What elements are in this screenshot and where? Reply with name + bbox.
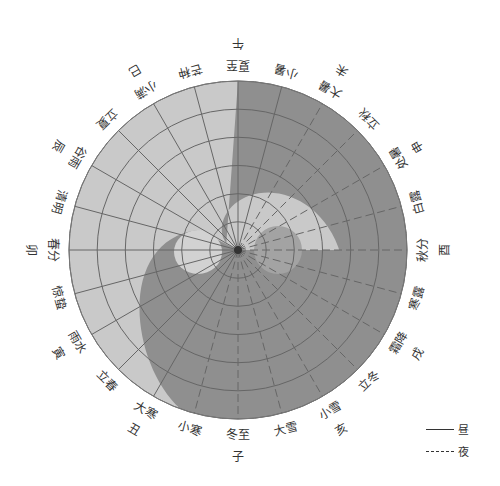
branch-label: 卯 — [24, 244, 38, 256]
solar-term-label: 夏至 — [226, 58, 250, 72]
branch-label: 子 — [232, 450, 244, 464]
solar-term-label: 芒种 — [177, 61, 204, 82]
solar-term-label: 春分 — [46, 238, 60, 262]
solar-term-label: 大暑 — [317, 78, 345, 102]
branch-label: 申 — [408, 138, 426, 155]
legend-night: 夜 — [426, 440, 469, 462]
solar-term-label: 雨水 — [66, 329, 90, 357]
solar-term-label: 冬至 — [226, 427, 250, 442]
branch-label: 亥 — [333, 420, 350, 438]
branch-label: 辰 — [50, 138, 68, 155]
dashed-line-icon — [426, 451, 454, 452]
solid-line-icon — [426, 429, 454, 430]
branch-label: 午 — [232, 36, 244, 50]
solar-term-label: 小雪 — [317, 398, 345, 422]
solar-term-label: 大雪 — [272, 419, 299, 439]
solar-term-label: 惊蛰 — [49, 284, 70, 311]
solar-term-label: 大寒 — [132, 397, 160, 422]
solar-term-label: 立夏 — [94, 106, 122, 134]
branch-label: 未 — [333, 62, 350, 80]
branch-label: 戌 — [408, 345, 426, 362]
legend-day: 昼 — [426, 418, 469, 440]
legend: 昼 夜 — [426, 418, 469, 462]
center-point — [234, 246, 242, 254]
legend-day-label: 昼 — [458, 421, 469, 437]
branch-label: 巳 — [126, 62, 143, 80]
solar-term-label: 小满 — [132, 78, 160, 102]
solar-term-label: 处暑 — [386, 144, 410, 172]
solar-term-label: 立冬 — [355, 367, 383, 395]
solar-term-label: 谷雨 — [66, 144, 90, 172]
solar-term-label: 清明 — [49, 189, 69, 216]
solar-term-label: 小寒 — [177, 418, 204, 439]
solar-term-label: 小暑 — [272, 61, 299, 81]
branch-label: 酉 — [438, 244, 452, 256]
solar-term-label: 霜降 — [386, 329, 410, 357]
solar-term-label: 白露 — [406, 189, 427, 216]
solar-term-label: 立秋 — [355, 106, 383, 134]
solar-term-label: 秋分 — [416, 238, 430, 262]
branch-label: 丑 — [126, 420, 143, 438]
taiji-solar-term-diagram: 夏至小暑大暑立秋处暑白露秋分寒露霜降立冬小雪大雪冬至小寒大寒立春雨水惊蛰春分清明… — [0, 0, 500, 486]
solar-term-label: 寒露 — [406, 284, 427, 311]
solar-term-label: 立春 — [94, 367, 122, 395]
legend-night-label: 夜 — [458, 443, 469, 459]
branch-label: 寅 — [50, 344, 69, 362]
